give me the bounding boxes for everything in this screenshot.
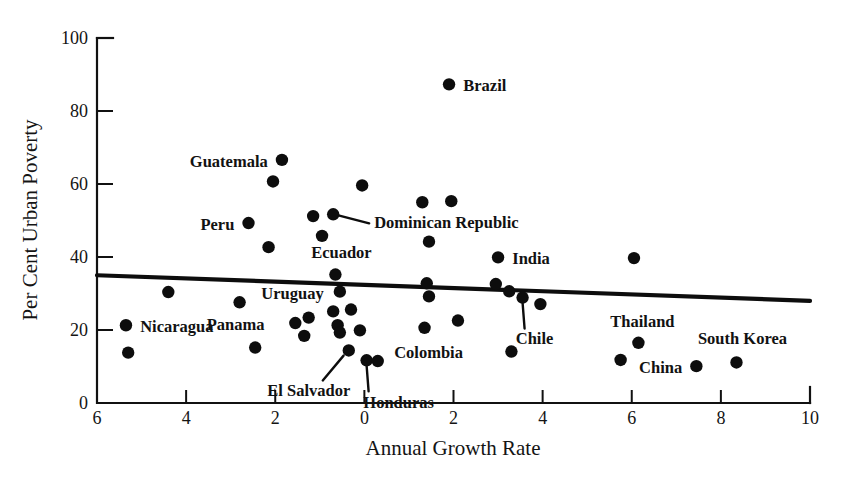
label-leader-line: [323, 356, 344, 381]
data-point-label: El Salvador: [267, 381, 350, 400]
data-point: [516, 291, 528, 303]
data-point-label: Panama: [207, 315, 265, 334]
x-tick-label: 6: [627, 408, 636, 428]
data-point: [730, 356, 742, 368]
y-tick-label: 60: [70, 174, 88, 194]
data-point: [316, 230, 328, 242]
y-axis-title: Per Cent Urban Poverty: [18, 119, 42, 321]
data-point: [276, 154, 288, 166]
data-point: [122, 346, 134, 358]
data-point: [343, 344, 355, 356]
data-point-label: South Korea: [698, 329, 787, 348]
data-point: [334, 326, 346, 338]
y-tick-label: 20: [70, 320, 88, 340]
label-leader-line: [367, 365, 369, 391]
data-point-label: Brazil: [463, 76, 506, 95]
data-point: [690, 360, 702, 372]
data-point: [421, 277, 433, 289]
label-leader-line: [523, 303, 525, 329]
data-point: [262, 241, 274, 253]
x-tick-label: 10: [801, 408, 819, 428]
scatter-plot: 6420246810 020406080100 NicaraguaPanamaG…: [0, 0, 867, 478]
data-point: [267, 175, 279, 187]
x-axis-title: Annual Growth Rate: [366, 436, 541, 460]
data-point-label: Colombia: [394, 343, 463, 362]
data-point: [452, 314, 464, 326]
data-point: [242, 217, 254, 229]
data-point-label: Peru: [200, 215, 234, 234]
data-point: [354, 324, 366, 336]
data-point: [162, 286, 174, 298]
x-tick-label: 4: [182, 408, 191, 428]
data-point: [372, 355, 384, 367]
data-point: [302, 311, 314, 323]
data-point: [356, 179, 368, 191]
data-point: [345, 303, 357, 315]
data-point: [334, 285, 346, 297]
label-leader-line: [338, 215, 369, 223]
data-point: [327, 305, 339, 317]
x-tick-label: 2: [271, 408, 280, 428]
data-point-label: Ecuador: [311, 243, 372, 262]
data-point-label: Uruguay: [261, 284, 324, 303]
data-point: [360, 354, 372, 366]
data-point: [289, 317, 301, 329]
data-point: [423, 290, 435, 302]
data-point: [307, 210, 319, 222]
data-point: [490, 278, 502, 290]
trend-line-group: [97, 275, 810, 301]
x-tick-label: 6: [93, 408, 102, 428]
data-point-label: Guatemala: [190, 152, 268, 171]
data-point: [445, 195, 457, 207]
data-point-label: China: [639, 358, 682, 377]
data-point: [120, 319, 132, 331]
data-point-label: India: [512, 249, 550, 268]
data-point: [416, 196, 428, 208]
data-point-labels: NicaraguaPanamaGuatemalaPeruDominican Re…: [140, 76, 787, 412]
x-tick-label: 2: [449, 408, 458, 428]
data-point: [329, 268, 341, 280]
y-tick-label: 100: [61, 28, 88, 48]
x-tick-label: 4: [538, 408, 547, 428]
x-tick-label: 8: [716, 408, 725, 428]
data-point: [492, 251, 504, 263]
data-point-label: Thailand: [610, 312, 674, 331]
regression-trend-line: [97, 275, 810, 301]
y-tick-label: 40: [70, 247, 88, 267]
data-point: [233, 296, 245, 308]
data-point: [632, 337, 644, 349]
data-point: [298, 330, 310, 342]
data-point: [503, 285, 515, 297]
data-point: [628, 252, 640, 264]
y-tick-label: 80: [70, 101, 88, 121]
data-point-label: Honduras: [363, 393, 434, 412]
data-point: [443, 78, 455, 90]
data-point-label: Nicaragua: [140, 317, 213, 336]
chart-page: 6420246810 020406080100 NicaraguaPanamaG…: [0, 0, 867, 478]
x-axis-ticks: 6420246810: [93, 390, 820, 428]
data-point: [327, 208, 339, 220]
y-axis-ticks: 020406080100: [61, 28, 113, 413]
data-point: [249, 341, 261, 353]
data-point-label: Chile: [516, 329, 554, 348]
data-point: [423, 235, 435, 247]
data-point: [614, 354, 626, 366]
data-point: [418, 322, 430, 334]
data-point-label: Dominican Republic: [374, 213, 518, 232]
y-tick-label: 0: [79, 393, 88, 413]
data-point: [534, 298, 546, 310]
